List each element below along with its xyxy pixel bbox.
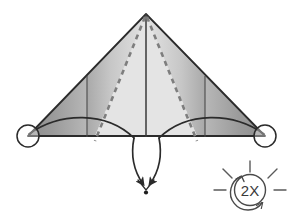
convergence-dot <box>144 190 148 194</box>
diagram-canvas: 2X <box>0 0 293 223</box>
right-fold-arrow <box>150 138 160 184</box>
badge-label: 2X <box>241 182 259 199</box>
badge-ray-upper-right <box>268 169 277 178</box>
badge-ray-upper-left <box>223 169 232 178</box>
fold-direction-arrows <box>133 138 161 195</box>
left-corner-circle <box>17 125 39 147</box>
left-fold-arrow <box>133 138 143 184</box>
right-corner-circle <box>254 125 276 147</box>
origami-fold-diagram: 2X <box>0 0 293 223</box>
repeat-badge: 2X <box>214 161 286 210</box>
